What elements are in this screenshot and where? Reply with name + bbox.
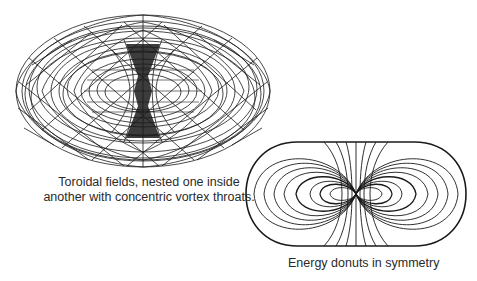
energy-donuts-figure bbox=[244, 138, 468, 250]
toroidal-fields-figure bbox=[12, 10, 274, 172]
clipped-text-line bbox=[0, 274, 477, 281]
caption-line-1: Toroidal fields, nested one inside bbox=[24, 175, 274, 190]
toroidal-fields-caption: Toroidal fields, nested one inside anoth… bbox=[24, 175, 274, 205]
energy-donut-field-lines-illustration bbox=[244, 138, 468, 250]
energy-donuts-caption: Energy donuts in symmetry bbox=[288, 256, 428, 271]
caption-line-2: another with concentric vortex throats. bbox=[24, 190, 274, 205]
wireframe-torus-illustration bbox=[12, 10, 274, 172]
